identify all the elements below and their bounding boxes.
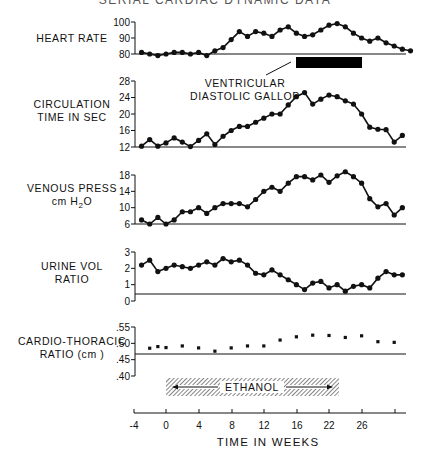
data-point (155, 144, 160, 149)
data-point (163, 266, 168, 271)
data-point (367, 125, 372, 130)
x-tick-label: 22 (323, 420, 335, 431)
data-point (245, 124, 250, 129)
data-point (286, 102, 291, 107)
data-point (246, 344, 249, 347)
data-point (253, 120, 258, 125)
panel-label: cm H2O (52, 195, 93, 210)
x-axis: -404812162226 TIME IN WEEKS (130, 409, 406, 448)
data-point (393, 341, 396, 344)
data-point (204, 259, 209, 264)
data-point (310, 177, 315, 182)
data-point (326, 92, 331, 97)
data-point (212, 205, 217, 210)
data-point (400, 205, 405, 210)
data-point (204, 211, 209, 216)
data-point (278, 27, 283, 32)
x-tick-label: 26 (356, 420, 368, 431)
data-point (180, 209, 185, 214)
data-point (155, 269, 160, 274)
data-point (220, 134, 225, 139)
data-point (360, 334, 363, 337)
data-point (253, 271, 258, 276)
panel-label: RATIO (cm ) (40, 348, 105, 360)
panel-1: 1009080HEART RATE (36, 17, 413, 60)
data-point (400, 272, 405, 277)
data-point (310, 32, 315, 37)
data-point (318, 27, 323, 32)
gallop-label-2: DIASTOLIC GALLOP (190, 90, 300, 102)
data-point (311, 334, 314, 337)
x-tick-label: -4 (130, 420, 139, 431)
data-point (204, 53, 209, 58)
panel-label: CIRCULATION (34, 98, 111, 110)
y-tick-label: 24 (119, 92, 131, 103)
panel-label: VENOUS PRESS (27, 182, 117, 194)
x-tick-label: 12 (258, 420, 270, 431)
data-point (359, 111, 364, 116)
data-point (188, 266, 193, 271)
data-point (212, 262, 217, 267)
panel-label: TIME IN SEC (37, 111, 107, 123)
data-point (196, 138, 201, 143)
y-tick-label: .40 (116, 371, 130, 382)
data-point (375, 204, 380, 209)
ethanol-label: ETHANOL (225, 381, 279, 393)
data-point (196, 205, 201, 210)
y-tick-label: 80 (119, 49, 131, 60)
data-point (335, 94, 340, 99)
data-point (326, 23, 331, 28)
data-point (212, 142, 217, 147)
data-point (318, 97, 323, 102)
data-point (147, 51, 152, 56)
data-point (188, 209, 193, 214)
data-point (188, 51, 193, 56)
y-tick-label: 14 (119, 186, 131, 197)
data-point (139, 144, 144, 149)
data-point (279, 338, 282, 341)
data-point (245, 204, 250, 209)
data-point (148, 347, 151, 350)
data-point (351, 102, 356, 107)
data-point (155, 53, 160, 58)
y-tick-label: 90 (119, 33, 131, 44)
data-point (253, 197, 258, 202)
data-point (408, 48, 413, 53)
data-point (229, 259, 234, 264)
data-point (163, 221, 168, 226)
data-point (213, 350, 216, 353)
panel-3: 1814106VENOUS PRESScm H2O (27, 169, 406, 229)
y-tick-label: 6 (124, 219, 130, 230)
data-point (318, 172, 323, 177)
data-point (375, 127, 380, 132)
y-tick-label: .45 (116, 354, 130, 365)
data-point (392, 139, 397, 144)
y-tick-label: 20 (119, 109, 131, 120)
data-point (343, 24, 348, 29)
data-point (172, 135, 177, 140)
data-point (181, 344, 184, 347)
data-point (237, 201, 242, 206)
data-point (359, 181, 364, 186)
data-point (278, 272, 283, 277)
data-point (351, 284, 356, 289)
data-point (163, 51, 168, 56)
data-point (155, 215, 160, 220)
data-point (383, 269, 388, 274)
data-point (376, 340, 379, 343)
data-point (335, 21, 340, 26)
data-point (204, 131, 209, 136)
data-point (367, 285, 372, 290)
data-point (196, 50, 201, 55)
data-point (172, 50, 177, 55)
data-point (367, 39, 372, 44)
data-line (142, 172, 403, 224)
data-point (180, 264, 185, 269)
y-tick-label: 0 (124, 296, 130, 307)
data-point (351, 31, 356, 36)
y-tick-label: 10 (119, 202, 131, 213)
data-point (302, 34, 307, 39)
data-point (237, 124, 242, 129)
data-point (343, 98, 348, 103)
gallop-label-1: VENTRICULAR (205, 77, 286, 89)
